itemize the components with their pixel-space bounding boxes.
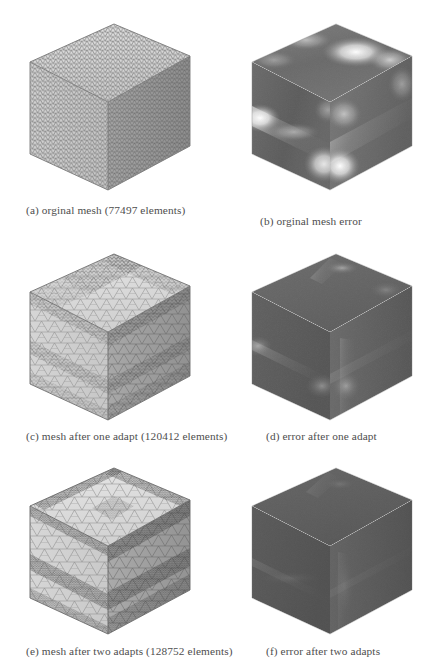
caption-a: (a) orginal mesh (77497 elements) [26, 204, 185, 216]
caption-e: (e) mesh after two adapts (128752 elemen… [26, 645, 233, 657]
caption-f: (f) error after two adapts [266, 645, 380, 657]
caption-b: (b) orginal mesh error [260, 215, 362, 227]
caption-d: (d) error after one adapt [266, 430, 377, 442]
panel-b-error-image [244, 14, 420, 196]
figure-grid: (a) orginal mesh (77497 elements) [0, 0, 444, 667]
panel-e-mesh-image [22, 458, 198, 640]
panel-c-mesh-image [22, 244, 198, 426]
panel-a-mesh-image [22, 14, 198, 196]
panel-d-error-image [244, 244, 420, 426]
panel-f-error-image [244, 458, 420, 640]
caption-c: (c) mesh after one adapt (120412 element… [26, 430, 227, 442]
